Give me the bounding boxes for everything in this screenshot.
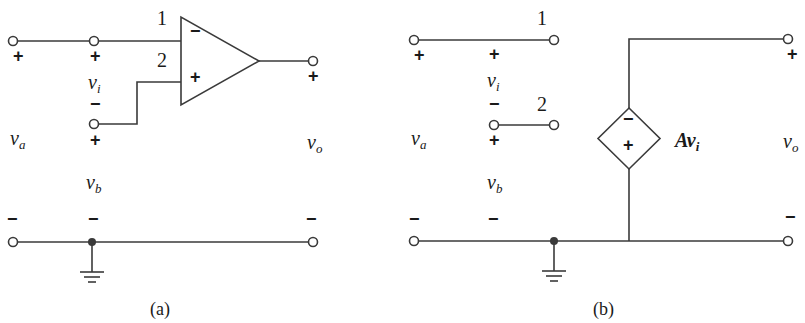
vo-label: vo [307, 132, 322, 155]
vo-label: vo [783, 131, 798, 154]
vi-label: vi [487, 70, 500, 93]
terminal-va-minus [410, 237, 419, 246]
vi-label: vi [88, 72, 101, 95]
terminal-vo-plus [309, 57, 318, 66]
terminal-input-2 [90, 120, 99, 129]
caption-a: (a) [150, 300, 170, 318]
junction-node [550, 237, 558, 245]
va-label: va [411, 128, 426, 151]
opamp-inverting-sign: − [190, 22, 201, 40]
terminal-input-1 [550, 36, 559, 45]
circuit-drawing [0, 0, 805, 323]
vb-minus-sign: − [88, 210, 99, 228]
terminal-va-plus [9, 37, 18, 46]
junction-node [88, 238, 96, 246]
source-gain-label: Avi [675, 130, 699, 153]
wire-input-2 [94, 82, 181, 124]
va-plus-sign: + [13, 47, 24, 65]
vo-plus-sign: + [787, 45, 798, 63]
vi-plus-sign: + [90, 47, 101, 65]
caption-b: (b) [593, 300, 614, 318]
input-1-label: 1 [157, 8, 167, 28]
terminal-input-1 [90, 37, 99, 46]
ground-icon [542, 241, 566, 281]
circuit-figure: 1 2 − + + va − + vi − + vb − + vo − (a) … [0, 0, 805, 323]
source-plus-sign: + [623, 136, 634, 154]
input-2-label: 2 [157, 50, 167, 70]
terminal-va-plus [410, 36, 419, 45]
terminal-va-minus [9, 238, 18, 247]
panel-b-circuit [410, 35, 793, 282]
vb-label: vb [487, 172, 502, 195]
terminal-vo-plus [784, 35, 793, 44]
terminal-input-2 [550, 121, 559, 130]
va-minus-sign: − [409, 210, 420, 228]
input-1-label: 1 [537, 8, 547, 28]
va-label: va [10, 128, 25, 151]
opamp-noninverting-sign: + [190, 68, 201, 86]
vi-minus-sign: − [489, 95, 500, 113]
input-2-label: 2 [537, 94, 547, 114]
va-minus-sign: − [7, 210, 18, 228]
vo-minus-sign: − [306, 210, 317, 228]
vo-plus-sign: + [308, 67, 319, 85]
terminal-vo-minus [309, 238, 318, 247]
ground-icon [80, 242, 104, 282]
wire-output [629, 39, 788, 108]
vb-minus-sign: − [488, 210, 499, 228]
vb-label: vb [86, 172, 101, 195]
source-minus-sign: − [623, 110, 634, 128]
vb-plus-sign: + [90, 131, 101, 149]
vb-plus-sign: + [489, 131, 500, 149]
vi-minus-sign: − [90, 95, 101, 113]
vo-minus-sign: − [785, 208, 796, 226]
va-plus-sign: + [414, 46, 425, 64]
vi-plus-sign: + [489, 45, 500, 63]
terminal-vb-plus [490, 121, 499, 130]
terminal-vo-minus [784, 237, 793, 246]
